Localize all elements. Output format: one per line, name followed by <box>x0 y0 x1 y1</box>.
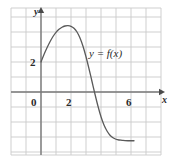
plot-canvas <box>0 0 172 162</box>
grid-lines <box>11 8 161 155</box>
function-graph-figure: 0 2 6 2 y x y = f(x) <box>0 0 172 162</box>
curve-equation-label: y = f(x) <box>89 48 122 59</box>
x-axis <box>11 89 165 95</box>
x-axis-label: x <box>162 95 167 105</box>
x-tick-label-6: 6 <box>126 97 132 108</box>
y-tick-label-2: 2 <box>30 57 36 68</box>
x-tick-label-2: 2 <box>66 97 72 108</box>
y-axis <box>38 7 44 155</box>
function-curve <box>41 26 134 141</box>
origin-label: 0 <box>31 97 37 108</box>
y-axis-label: y <box>34 7 38 17</box>
